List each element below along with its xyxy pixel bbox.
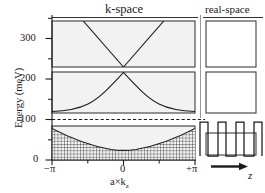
miniband-2-band <box>52 72 195 113</box>
kspace-miniband-1 <box>52 126 195 160</box>
kspace-miniband-3 <box>52 15 195 67</box>
miniband-3-band <box>52 21 195 67</box>
y-tick-label-300: 300 <box>20 33 36 44</box>
figure-canvas <box>0 0 265 193</box>
y-axis <box>46 15 53 160</box>
x-tick-label-plus-pi: +π <box>186 164 197 175</box>
y-tick-label-200: 200 <box>20 73 36 84</box>
realspace-miniband-2-box <box>206 72 256 113</box>
realspace-panel <box>200 21 262 156</box>
x-axis-title: a×kz <box>110 177 129 190</box>
z-direction-arrow-icon <box>211 163 248 170</box>
y-tick-label-100: 100 <box>20 114 36 125</box>
realspace-miniband-1-box <box>206 133 256 155</box>
z-axis-label: z <box>248 170 252 181</box>
realspace-panel-title: real-space <box>205 4 250 15</box>
x-tick-label-zero: 0 <box>120 164 125 175</box>
kspace-panel-title: k-space <box>105 3 143 16</box>
x-axis-title-subscript: z <box>126 182 129 190</box>
superlattice-band-figure: k-space real-space Energy (meV) 0 100 20… <box>0 0 265 193</box>
x-tick-label-minus-pi: −π <box>44 164 55 175</box>
realspace-miniband-3-box <box>206 21 256 67</box>
y-tick-label-0: 0 <box>33 154 38 165</box>
x-axis-title-main: a×k <box>110 176 126 187</box>
kspace-miniband-2 <box>52 72 195 113</box>
